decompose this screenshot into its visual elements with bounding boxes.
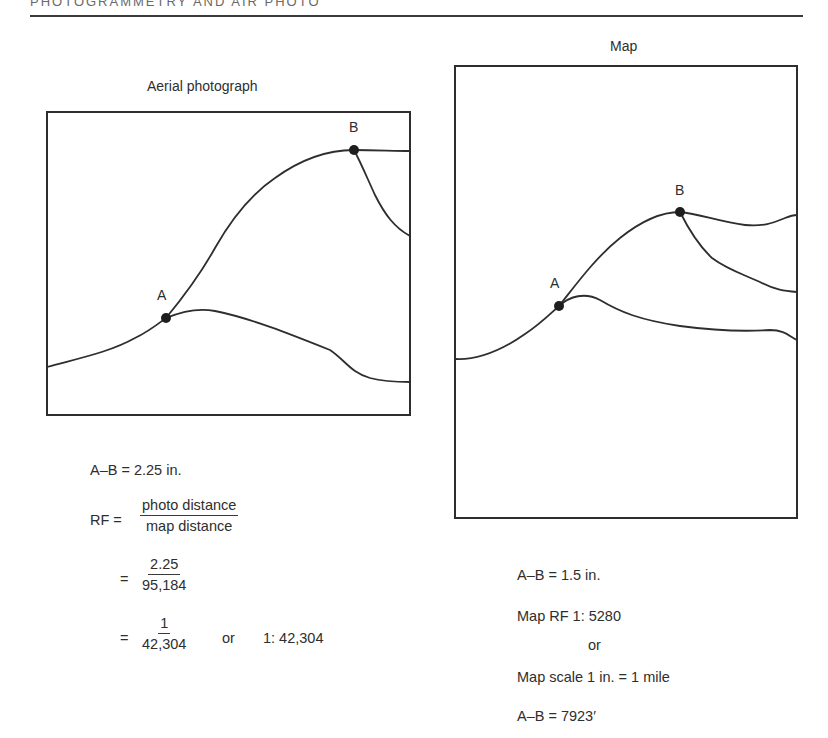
step1-numerator: 2.25 xyxy=(148,556,180,575)
map-frame xyxy=(455,66,797,518)
diagram-canvas xyxy=(0,0,828,738)
map-scale: Map scale 1 in. = 1 mile xyxy=(517,669,670,685)
rf-numerator: photo distance xyxy=(140,497,238,516)
photo-point-b-marker xyxy=(349,145,359,155)
photo-point-a-marker xyxy=(161,313,171,323)
photo-frame xyxy=(47,112,410,415)
map-point-b-label: B xyxy=(675,182,684,198)
photo-rf-ratio: 1: 42,304 xyxy=(263,630,323,646)
rf-step2-fraction: 1 42,304 xyxy=(140,615,188,652)
rf-denominator: map distance xyxy=(144,516,234,534)
rf-step1-fraction: 2.25 95,184 xyxy=(140,556,188,593)
step2-denominator: 42,304 xyxy=(140,634,188,652)
equals-sign-2: = xyxy=(120,630,128,646)
step1-denominator: 95,184 xyxy=(140,575,188,593)
rf-formula-fraction: photo distance map distance xyxy=(140,497,238,534)
photo-point-a-label: A xyxy=(157,287,166,303)
or-text-left: or xyxy=(222,630,235,646)
equals-sign-1: = xyxy=(120,571,128,587)
map-point-b-marker xyxy=(675,207,685,217)
photo-ab-distance: A–B = 2.25 in. xyxy=(90,462,182,478)
map-ab-distance: A–B = 1.5 in. xyxy=(517,567,600,583)
map-point-a-marker xyxy=(554,301,564,311)
map-stream-lines xyxy=(456,212,797,359)
step2-numerator: 1 xyxy=(158,615,170,634)
photo-point-b-label: B xyxy=(349,119,358,135)
map-point-a-label: A xyxy=(550,275,559,291)
photo-stream-lines xyxy=(47,150,410,382)
rf-label: RF = xyxy=(90,512,122,528)
or-text-right: or xyxy=(588,637,601,653)
map-rf: Map RF 1: 5280 xyxy=(517,608,621,624)
map-ab-ground-distance: A–B = 7923′ xyxy=(517,708,596,724)
